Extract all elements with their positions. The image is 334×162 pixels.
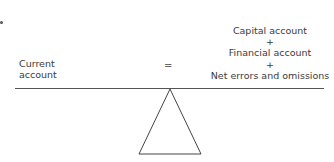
equals-sign: = bbox=[164, 60, 172, 71]
fulcrum-triangle bbox=[139, 89, 201, 154]
capital-account-label: Capital account bbox=[210, 25, 330, 36]
current-label: Current bbox=[19, 58, 57, 69]
plus-sign-2: + bbox=[210, 59, 330, 70]
left-side-label: Current account bbox=[19, 58, 57, 80]
account-label: account bbox=[19, 69, 57, 80]
financial-account-label: Financial account bbox=[210, 47, 330, 58]
plus-sign-1: + bbox=[210, 36, 330, 47]
right-side-label: Capital account + Financial account + Ne… bbox=[210, 25, 330, 81]
net-errors-label: Net errors and omissions bbox=[210, 70, 330, 81]
